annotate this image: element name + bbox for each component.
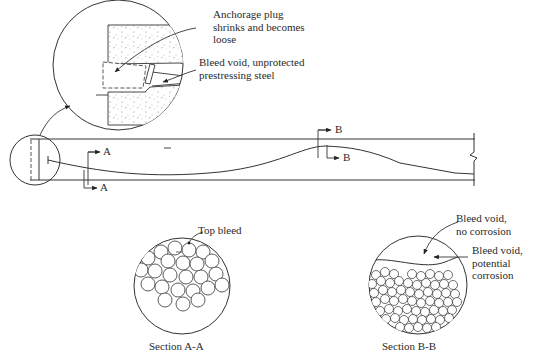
section-a-caption: Section A-A: [149, 340, 204, 352]
label-line: no corrosion: [456, 225, 511, 238]
magnify-arrow: [40, 106, 70, 135]
label-line: Bleed void, unprotected: [199, 56, 304, 69]
label-line: Bleed void,: [456, 212, 511, 225]
anchorage-plug-label: Anchorage plug shrinks and becomes loose: [213, 8, 305, 46]
no-corrosion-label: Bleed void, no corrosion: [456, 212, 511, 237]
beam-elevation: [10, 133, 477, 186]
section-a-drawing: [134, 232, 230, 334]
section-mark-a-top: A: [103, 145, 111, 157]
section-b-caption: Section B-B: [382, 340, 436, 352]
bleed-void-steel-label: Bleed void, unprotected prestressing ste…: [199, 56, 304, 81]
anchorage-detail-circle: [53, 0, 200, 130]
label-line: corrosion: [472, 269, 523, 282]
label-line: Anchorage plug: [213, 8, 305, 21]
potential-corrosion-label: Bleed void, potential corrosion: [472, 244, 523, 282]
section-mark-b-bottom: B: [343, 151, 350, 163]
label-line: potential: [472, 257, 523, 270]
top-bleed-label: Top bleed: [198, 224, 242, 237]
diagram-canvas: [0, 0, 533, 359]
section-b-drawing: [368, 222, 469, 334]
label-line: shrinks and becomes: [213, 21, 305, 34]
section-mark-b-top: B: [335, 123, 342, 135]
section-mark-a-bottom: A: [100, 181, 108, 193]
label-line: Bleed void,: [472, 244, 523, 257]
label-line: prestressing steel: [199, 69, 304, 82]
label-line: loose: [213, 33, 305, 46]
